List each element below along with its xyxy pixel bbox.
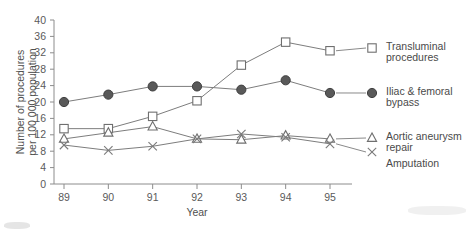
legend-label-line1: Amputation: [386, 157, 439, 169]
y-tick-label: 8: [40, 145, 46, 157]
x-tick-label: 94: [280, 191, 292, 203]
data-point-marker: [237, 85, 246, 94]
x-tick-label: 91: [147, 191, 159, 203]
y-tick-label: 40: [34, 14, 46, 26]
series-2: Iliac & femoralbypass: [59, 76, 452, 108]
data-point-marker: [59, 97, 68, 106]
legend-leader-line: [336, 48, 366, 51]
line-chart: 048121620242832364089909192939495YearNum…: [0, 0, 473, 235]
data-point-marker: [60, 124, 68, 132]
data-point-marker: [325, 88, 334, 97]
x-tick-label: 92: [191, 191, 203, 203]
data-point-marker: [104, 90, 113, 99]
data-point-marker: [326, 47, 334, 55]
series-4: Amputation: [60, 130, 439, 169]
x-tick-label: 93: [235, 191, 247, 203]
data-point-marker: [281, 38, 289, 46]
y-tick-label: 0: [40, 178, 46, 190]
legend-label-line2: repair: [386, 141, 413, 153]
data-point-marker: [148, 122, 157, 130]
series-3: Aortic aneurysmrepair: [59, 122, 462, 153]
x-axis-title: Year: [186, 206, 208, 218]
data-point-marker: [192, 82, 201, 91]
legend-label-line2: procedures: [386, 51, 439, 63]
x-tick-label: 95: [324, 191, 336, 203]
axes: 048121620242832364089909192939495YearNum…: [14, 14, 352, 218]
x-tick-label: 89: [58, 191, 70, 203]
x-tick-label: 90: [102, 191, 114, 203]
legend-marker: [368, 44, 376, 52]
y-axis-title-line2: per 100 000 population: [26, 48, 38, 156]
y-tick-label: 4: [40, 161, 46, 173]
y-axis-title-line1: Number of procedures: [14, 50, 26, 154]
data-point-marker: [148, 112, 156, 120]
data-point-marker: [237, 61, 245, 69]
legend-leader-line: [336, 144, 366, 152]
chart-figure: 048121620242832364089909192939495YearNum…: [0, 0, 473, 235]
data-point-marker: [148, 82, 157, 91]
y-tick-label: 36: [34, 30, 46, 42]
data-point-marker: [281, 76, 290, 85]
legend-marker: [367, 133, 376, 141]
legend-label-line2: bypass: [386, 96, 419, 108]
data-point-marker: [193, 97, 201, 105]
legend-leader-line: [336, 138, 366, 139]
legend-marker: [367, 88, 376, 97]
